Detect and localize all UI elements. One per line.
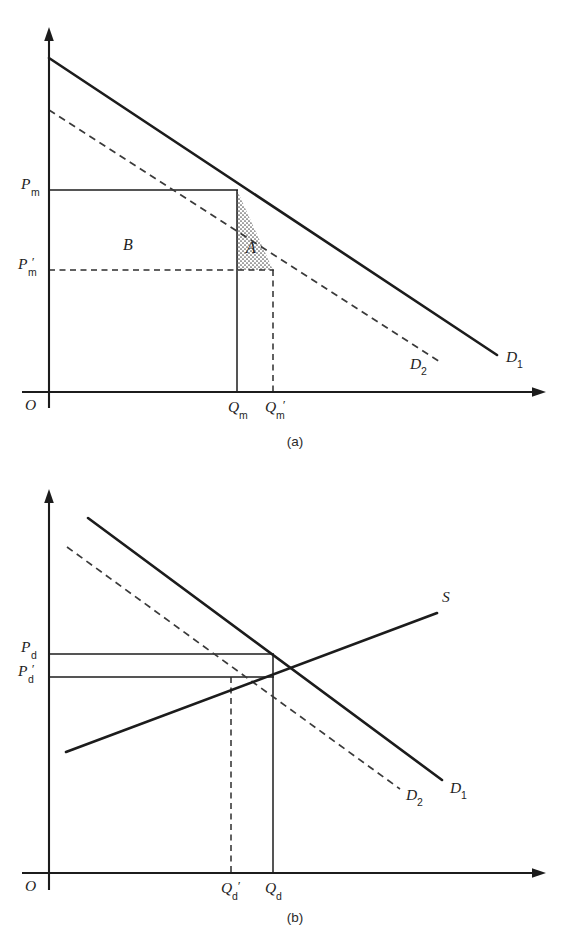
svg-text:P: P <box>17 662 28 679</box>
svg-text:1: 1 <box>517 358 523 370</box>
demand-curve-d1 <box>49 58 497 355</box>
svg-text:′: ′ <box>31 254 34 269</box>
curve-label-d2-a: D 2 <box>409 355 427 377</box>
y-label-pd: P d <box>20 638 37 661</box>
demand-curve-d2-b <box>67 547 400 789</box>
svg-text:Q: Q <box>265 879 276 896</box>
svg-text:1: 1 <box>461 789 467 801</box>
curve-label-s: S <box>442 588 450 605</box>
svg-text:P: P <box>20 638 31 655</box>
svg-text:′: ′ <box>282 397 285 412</box>
svg-text:D: D <box>409 355 421 372</box>
caption-b: (b) <box>287 910 304 925</box>
x-axis-arrow-icon <box>532 387 546 397</box>
svg-text:P: P <box>17 255 28 272</box>
panel-a: P m P m ′ Q m Q m ′ O B A <box>0 0 572 470</box>
supply-curve-s <box>66 613 437 752</box>
svg-text:D: D <box>405 786 417 803</box>
origin-label-a: O <box>25 396 36 413</box>
area-label-b: B <box>123 236 133 253</box>
svg-text:′: ′ <box>237 878 240 893</box>
x-label-qm-prime: Q m ′ <box>265 397 285 421</box>
svg-text:2: 2 <box>421 365 427 377</box>
svg-text:Q: Q <box>221 879 232 896</box>
origin-label-b: O <box>25 877 36 894</box>
y-axis-arrow-icon <box>44 27 54 41</box>
caption-a: (a) <box>287 434 304 449</box>
svg-text:2: 2 <box>417 796 423 808</box>
svg-text:′: ′ <box>31 661 34 676</box>
demand-curve-d2 <box>49 110 440 362</box>
y-axis-arrow-icon-b <box>44 489 54 503</box>
y-label-pm-prime: P m ′ <box>17 254 37 278</box>
svg-text:m: m <box>239 409 248 421</box>
x-axis-arrow-icon-b <box>532 868 546 878</box>
svg-text:D: D <box>505 348 517 365</box>
svg-text:Q: Q <box>265 398 276 415</box>
x-label-qm: Q m <box>228 398 248 421</box>
svg-text:P: P <box>20 175 31 192</box>
svg-text:D: D <box>449 779 461 796</box>
y-label-pd-prime: P d ′ <box>17 661 34 685</box>
curve-label-d1-b: D 1 <box>449 779 467 801</box>
svg-text:d: d <box>276 890 282 902</box>
panel-b: P d P d ′ Q d ′ Q d O S D <box>0 470 572 941</box>
figure-page: P m P m ′ Q m Q m ′ O B A <box>0 0 572 941</box>
svg-text:Q: Q <box>228 398 239 415</box>
x-label-qd: Q d <box>265 879 282 902</box>
demand-curve-d1-b <box>88 518 442 780</box>
y-label-pm: P m <box>20 175 40 198</box>
x-label-qd-prime: Q d ′ <box>221 878 240 902</box>
area-label-a: A <box>245 239 256 256</box>
svg-text:d: d <box>31 649 37 661</box>
svg-text:m: m <box>31 186 40 198</box>
curve-label-d2-b: D 2 <box>405 786 423 808</box>
curve-label-d1-a: D 1 <box>505 348 523 370</box>
